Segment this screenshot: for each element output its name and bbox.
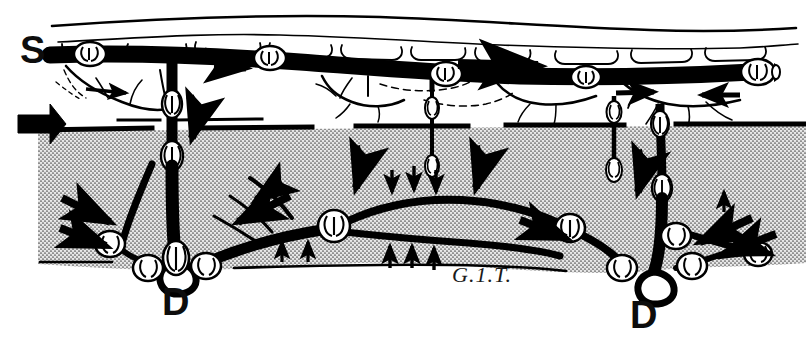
artist-signature: G.1.T. <box>452 262 512 288</box>
perforator-valve <box>651 111 669 137</box>
superficial-flow-arrow <box>458 64 538 66</box>
superficial-flow-arrow <box>86 89 126 93</box>
venous-system-figure: S D D G.1.T. <box>0 0 806 349</box>
superficial-flow-arrow <box>616 92 654 93</box>
venous-diagram-canvas <box>0 0 806 349</box>
bicuspid-valve <box>571 66 601 88</box>
bicuspid-valve <box>74 42 106 66</box>
bicuspid-valve <box>133 255 163 281</box>
bicuspid-valve <box>677 253 707 279</box>
bicuspid-valve <box>607 255 637 281</box>
perforator-valve <box>425 97 439 119</box>
label-superficial-vein: S <box>20 31 45 69</box>
perforator-valve <box>162 90 182 118</box>
perforator-flow-arrow <box>190 96 195 138</box>
perforator-flow-arrow <box>356 146 359 188</box>
skin-surface-line <box>52 16 798 49</box>
superficial-flow-arrow <box>214 66 246 68</box>
bicuspid-valve-terminal <box>741 59 780 85</box>
perforator-valve <box>606 158 622 182</box>
bicuspid-valve <box>318 210 350 242</box>
bicuspid-valve <box>163 241 189 275</box>
label-deep-vein-left: D <box>162 283 189 321</box>
bicuspid-valve <box>191 253 221 279</box>
perforator-flow-arrow <box>476 146 479 188</box>
bicuspid-valve <box>254 46 286 70</box>
perforator-flow-arrow <box>638 150 641 192</box>
bicuspid-valve <box>430 62 462 86</box>
perforator-valve <box>607 101 622 123</box>
label-deep-vein-right: D <box>630 296 657 334</box>
bicuspid-valve <box>661 223 691 249</box>
